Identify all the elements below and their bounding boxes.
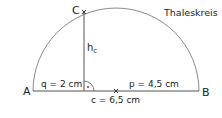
hypotenuse-c-label: c = 6,5 cm <box>91 95 140 105</box>
point-b-label: B <box>202 86 210 99</box>
point-a-label: A <box>23 85 31 98</box>
segment-p-label: p = 4,5 cm <box>129 79 179 89</box>
right-angle-dot <box>87 86 89 88</box>
altitude-label: hc <box>87 42 97 55</box>
diagram-title: Thaleskreis <box>163 7 218 18</box>
segment-q-label: q = 2 cm <box>41 79 82 89</box>
point-c-label: C <box>72 4 80 17</box>
right-angle-marker <box>84 81 94 91</box>
thales-diagram: C A B hc q = 2 cm p = 4,5 cm c = 6,5 cm … <box>0 0 222 118</box>
